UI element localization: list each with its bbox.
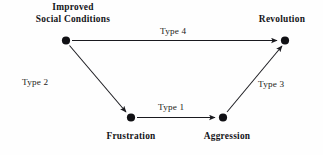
- edge-label-type-2: Type 2: [22, 77, 48, 87]
- node-label-line-1: Improved: [18, 2, 128, 14]
- node-label-improved-social-conditions: Improved Social Conditions: [18, 2, 128, 25]
- node-label-line-2: Social Conditions: [18, 14, 128, 26]
- node-frustration[interactable]: [127, 113, 135, 121]
- edge-label-type-4: Type 4: [160, 26, 186, 36]
- diagram-canvas: Improved Social Conditions Revolution Fr…: [0, 0, 323, 155]
- node-label-revolution: Revolution: [243, 14, 321, 26]
- edge-label-type-1: Type 1: [158, 102, 184, 112]
- node-label-aggression: Aggression: [188, 131, 266, 143]
- node-label-frustration: Frustration: [92, 131, 170, 143]
- node-aggression[interactable]: [219, 113, 227, 121]
- node-improved-social-conditions[interactable]: [62, 36, 70, 44]
- node-revolution[interactable]: [281, 36, 289, 44]
- edge-label-type-3: Type 3: [258, 79, 284, 89]
- edge-type-2: [70, 46, 127, 113]
